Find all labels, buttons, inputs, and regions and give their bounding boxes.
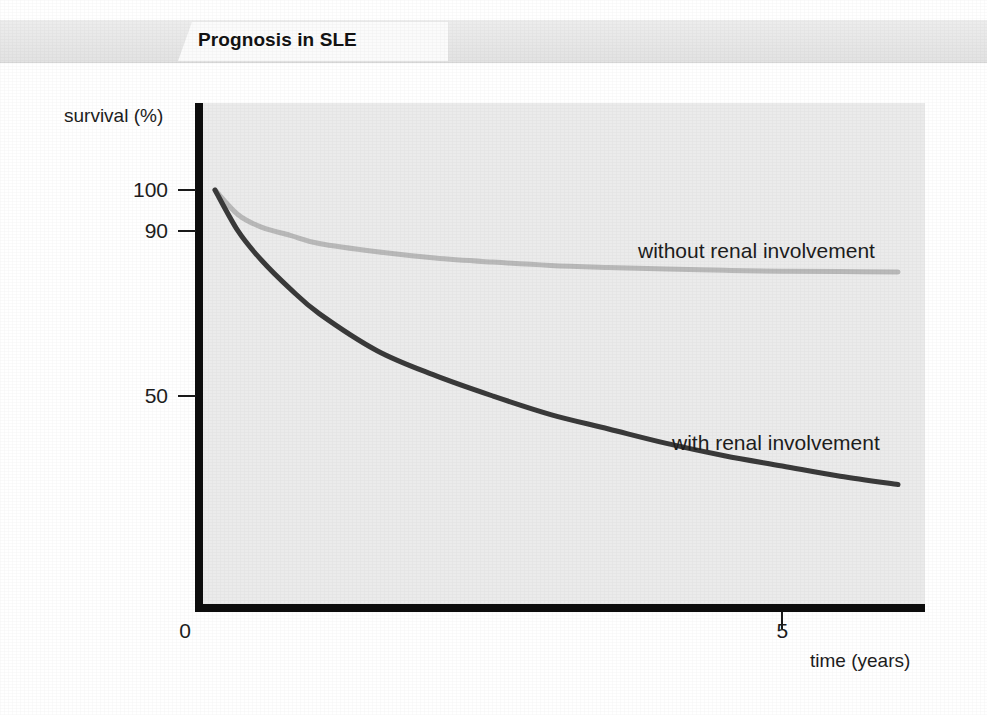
y-tick-mark [178, 230, 196, 232]
y-tick-mark [178, 395, 196, 397]
x-axis-title: time (years) [810, 650, 910, 672]
y-axis-line [195, 103, 203, 612]
x-tick-label: 0 [165, 620, 205, 641]
y-tick-label: 90 [108, 220, 168, 241]
x-tick-label: 5 [762, 620, 802, 641]
y-axis-title: survival (%) [64, 105, 163, 127]
x-axis-line [195, 604, 925, 612]
survival-chart: survival (%) time (years) 100 90 50 0 5 … [0, 0, 987, 715]
series-label-with-renal-involvement: with renal involvement [672, 432, 880, 453]
y-tick-label: 100 [108, 179, 168, 200]
y-tick-label: 50 [108, 385, 168, 406]
plot-area-background [203, 103, 925, 606]
series-label-without-renal-involvement: without renal involvement [638, 240, 875, 261]
y-tick-mark [178, 189, 196, 191]
